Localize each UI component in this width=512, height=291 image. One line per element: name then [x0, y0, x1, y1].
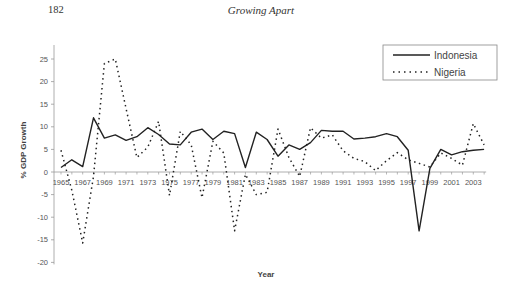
x-tick-label: 2003	[465, 178, 482, 187]
x-tick-label: 1971	[118, 178, 135, 187]
x-tick-label: 1991	[335, 178, 352, 187]
x-tick-label: 1983	[248, 178, 265, 187]
x-tick-label: 1999	[422, 178, 439, 187]
y-tick-label: 0	[44, 168, 48, 177]
y-tick-label: -5	[41, 190, 48, 199]
y-tick-label: -15	[37, 235, 48, 244]
x-axis-title: Year	[258, 270, 275, 279]
x-tick-label: 1997	[400, 178, 417, 187]
x-tick-label: 1967	[74, 178, 91, 187]
x-tick-label: 1975	[161, 178, 178, 187]
x-axis: 1965196719691971197319751977197919811983…	[53, 172, 486, 187]
x-tick-label: 1979	[205, 178, 222, 187]
y-tick-label: 15	[40, 100, 48, 109]
y-tick-label: -20	[37, 258, 48, 267]
x-tick-label: 1989	[313, 178, 330, 187]
x-tick-label: 1985	[270, 178, 287, 187]
y-tick-label: 5	[44, 145, 48, 154]
x-tick-label: 2001	[443, 178, 460, 187]
legend-label-indonesia: Indonesia	[434, 50, 478, 61]
y-tick-label: -10	[37, 213, 48, 222]
legend: Indonesia Nigeria	[383, 45, 497, 80]
x-tick-label: 1969	[96, 178, 113, 187]
y-axis-title: % GDP Growth	[19, 122, 28, 179]
x-tick-label: 1987	[291, 178, 308, 187]
y-tick-label: 25	[40, 55, 48, 64]
x-tick-label: 1995	[378, 178, 395, 187]
y-axis: 2520151050-5-10-15-20	[37, 45, 54, 267]
y-tick-label: 20	[40, 77, 48, 86]
x-tick-label: 1965	[53, 178, 70, 187]
legend-label-nigeria: Nigeria	[434, 67, 466, 78]
gdp-growth-chart: 2520151050-5-10-15-20 196519671969197119…	[0, 0, 512, 291]
x-tick-label: 1993	[356, 178, 373, 187]
x-tick-label: 1973	[139, 178, 156, 187]
line-nigeria	[61, 59, 484, 243]
x-tick-label: 1981	[226, 178, 243, 187]
series-lines	[61, 59, 484, 243]
line-indonesia	[61, 118, 484, 231]
y-tick-label: 10	[40, 122, 48, 131]
x-tick-label: 1977	[183, 178, 200, 187]
